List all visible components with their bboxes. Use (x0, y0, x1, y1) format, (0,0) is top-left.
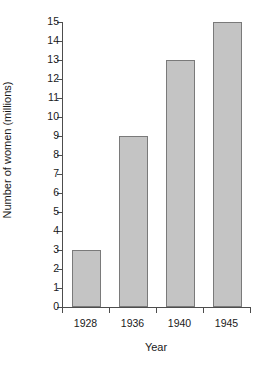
y-tick-label: 13 (47, 53, 59, 66)
x-tick-label-1928: 1928 (62, 316, 109, 330)
y-tick-label: 8 (53, 148, 59, 161)
bar-chart-figure: Number of women (millions) 0123456789101… (0, 0, 271, 374)
y-tick-label: 1 (53, 281, 59, 294)
y-axis-title: Number of women (millions) (0, 0, 14, 300)
bar-1928 (72, 250, 100, 307)
y-tick-label: 5 (53, 205, 59, 218)
x-tick-mark (250, 308, 251, 313)
bar-1940 (166, 60, 194, 307)
y-tick-label: 15 (47, 15, 59, 28)
y-tick-label: 6 (53, 186, 59, 199)
bar-1936 (119, 136, 147, 307)
plot-area: 0123456789101112131415 1928193619401945 (62, 22, 250, 307)
y-tick-label: 4 (53, 224, 59, 237)
x-tick-mark (109, 308, 110, 313)
x-tick-mark (156, 308, 157, 313)
y-tick-label: 12 (47, 72, 59, 85)
x-tick-mark (203, 308, 204, 313)
y-tick-label: 9 (53, 129, 59, 142)
y-tick-label: 2 (53, 262, 59, 275)
y-tick-label: 3 (53, 243, 59, 256)
x-tick-label-1940: 1940 (156, 316, 203, 330)
y-tick-label: 10 (47, 110, 59, 123)
y-tick-label: 7 (53, 167, 59, 180)
bars-layer (63, 22, 251, 307)
x-tick-label-1945: 1945 (203, 316, 250, 330)
y-tick-label: 11 (48, 91, 59, 104)
x-tick-label-1936: 1936 (109, 316, 156, 330)
y-tick-label: 0 (53, 300, 59, 313)
x-tick-mark (62, 308, 63, 313)
x-axis-title: Year (62, 340, 250, 354)
y-tick-label: 14 (47, 34, 59, 47)
bar-1945 (213, 22, 241, 307)
